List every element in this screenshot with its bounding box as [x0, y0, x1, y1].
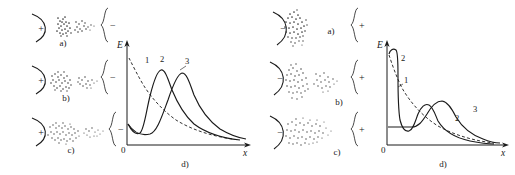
panel-left: + a) − +: [32, 8, 251, 169]
curve-2: [389, 49, 494, 144]
brace: [351, 112, 358, 146]
x-axis-label: x: [242, 148, 248, 158]
curve-label-1: 1: [145, 55, 149, 65]
brace: [101, 60, 108, 94]
cusp-sign: −: [277, 127, 283, 138]
chart-left: E x 0 1 2 3 d): [116, 40, 251, 169]
panel-right-row-b: − b) +: [270, 60, 365, 107]
particle-cloud: [56, 16, 94, 37]
bracket-sign: +: [359, 124, 365, 135]
origin-label: 0: [121, 145, 126, 155]
panel-right: − a) + −: [270, 8, 509, 169]
cusp-sign: +: [38, 23, 44, 34]
chart-label-d: d): [439, 159, 447, 169]
panel-left-row-c: + c) −: [32, 112, 124, 155]
curve-label-2: 2: [401, 53, 405, 63]
particle-cloud: [50, 71, 97, 92]
panel-left-row-a: + a) −: [32, 8, 116, 48]
curve-label-3: 3: [185, 56, 189, 66]
brace: [351, 8, 358, 42]
curve-label-3: 3: [473, 104, 477, 114]
x-axis-label: x: [500, 148, 506, 158]
curve-3: [388, 101, 500, 143]
panel-left-row-b: + b) −: [32, 60, 116, 103]
figure-container: + a) − +: [0, 0, 515, 175]
bracket-sign: −: [110, 72, 116, 83]
row-label-a: a): [328, 26, 335, 36]
brace: [101, 8, 108, 42]
y-axis-label: E: [116, 40, 123, 50]
bracket-sign: −: [118, 124, 124, 135]
row-label-c: c): [334, 147, 341, 157]
curve-3: [128, 73, 246, 139]
cusp-sign: +: [38, 127, 44, 138]
bracket-sign: −: [110, 20, 116, 31]
particle-cloud: [284, 9, 308, 46]
figure-svg: + a) − +: [0, 0, 515, 175]
curve-2: [128, 70, 240, 140]
particle-cloud: [47, 122, 103, 144]
row-label-c: c): [68, 145, 75, 155]
brace: [351, 60, 358, 94]
bracket-sign: +: [359, 20, 365, 31]
chart-right: E x 0 1 2 2 3 d): [376, 40, 509, 169]
chart-label-d: d): [181, 159, 189, 169]
cusp-sign: −: [277, 73, 283, 84]
origin-label: 0: [381, 145, 386, 155]
row-label-a: a): [60, 38, 67, 48]
particle-cloud: [285, 63, 337, 99]
row-label-b: b): [62, 93, 70, 103]
cusp-sign: +: [38, 75, 44, 86]
y-axis-label: E: [376, 40, 383, 50]
particle-cloud: [285, 117, 331, 145]
row-label-b: b): [335, 97, 343, 107]
bracket-sign: +: [359, 72, 365, 83]
panel-right-row-a: − a) +: [273, 8, 365, 47]
curve-3-leader: [180, 66, 186, 70]
panel-right-row-c: − c) +: [270, 112, 365, 157]
brace: [109, 112, 116, 146]
curve-label-1: 1: [404, 75, 408, 85]
curve-label-2: 2: [160, 54, 164, 64]
